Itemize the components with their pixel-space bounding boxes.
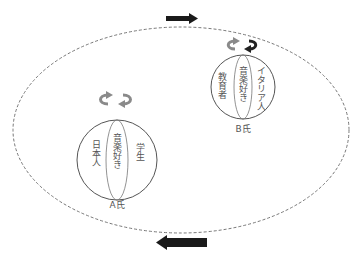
person-a-right-segment: 学生 — [135, 142, 145, 161]
person-a-label: A氏 — [109, 200, 124, 210]
social-space-boundary — [13, 27, 349, 233]
rotate-arrows-icon — [101, 91, 131, 108]
person-b-right-segment: イタリア人 — [256, 66, 266, 111]
person-a-middle-segment: 音楽好き — [112, 132, 122, 169]
flow-arrow-left-icon — [156, 235, 207, 250]
person-b-label: B氏 — [235, 124, 250, 134]
person-a-sphere: 日本人 音楽好き 学生 A氏 — [77, 91, 157, 210]
person-b-sphere: 教育者 音楽好き イタリア人 B氏 — [211, 37, 275, 134]
rotate-arrows-icon — [228, 37, 256, 53]
person-b-middle-segment: 音楽好き — [238, 65, 248, 102]
flow-arrow-right-icon — [166, 13, 198, 24]
person-a-left-segment: 日本人 — [91, 140, 101, 167]
person-b-left-segment: 教育者 — [217, 71, 227, 99]
diagram-canvas: 日本人 音楽好き 学生 A氏 教育者 音楽好き イタリア人 B氏 — [0, 0, 353, 260]
